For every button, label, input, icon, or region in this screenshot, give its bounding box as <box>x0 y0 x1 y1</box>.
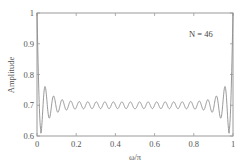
y-tick-label: 0.8 <box>23 70 34 80</box>
y-axis-label: Amplitude <box>6 57 16 94</box>
x-tick-label: 0.8 <box>188 139 199 149</box>
x-axis-label: ω/π <box>129 152 142 162</box>
x-tick-label: 0.2 <box>71 139 82 149</box>
y-tick-label: 1 <box>30 8 34 18</box>
y-axis: 0.60.70.80.91 <box>23 8 233 141</box>
x-tick-label: 0 <box>35 139 39 149</box>
y-tick-label: 0.7 <box>23 100 34 110</box>
x-tick-label: 0.4 <box>110 139 121 149</box>
y-tick-label: 0.6 <box>23 131 34 141</box>
amplitude-chart: 0.60.70.80.91 00.20.40.60.81 N = 46 ω/π … <box>0 0 248 165</box>
x-tick-label: 1 <box>231 139 235 149</box>
y-tick-label: 0.9 <box>23 39 34 49</box>
x-tick-label: 0.6 <box>149 139 160 149</box>
n-annotation: N = 46 <box>189 29 213 39</box>
